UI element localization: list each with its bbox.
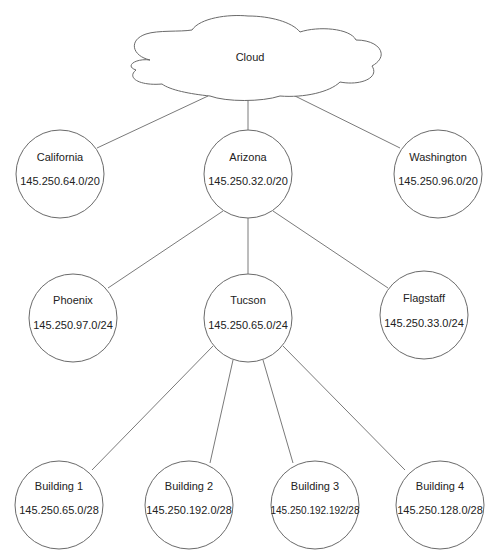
node-name: Building 2 xyxy=(165,480,213,492)
node-subnet: 145.250.64.0/20 xyxy=(20,175,100,187)
node-tucson[interactable]: Tucson 145.250.65.0/24 xyxy=(204,274,292,362)
node-name: Tucson xyxy=(230,294,266,306)
node-phoenix[interactable]: Phoenix 145.250.97.0/24 xyxy=(29,274,117,362)
node-building3[interactable]: Building 3 145.250.192.192/28 xyxy=(271,461,360,549)
node-subnet: 145.250.192.192/28 xyxy=(271,505,360,516)
node-name: Building 3 xyxy=(291,480,339,492)
california-circle xyxy=(16,130,104,218)
edge-arizona-flagstaff xyxy=(273,211,388,288)
edge-arizona-phoenix xyxy=(108,211,223,288)
node-washington[interactable]: Washington 145.250.96.0/20 xyxy=(394,130,482,218)
cloud-label: Cloud xyxy=(236,51,265,63)
node-subnet: 145.250.65.0/24 xyxy=(208,319,288,331)
edge-tucson-building3 xyxy=(263,360,293,463)
edge-cloud-california xyxy=(97,96,208,148)
tucson-circle xyxy=(204,274,292,362)
node-name: California xyxy=(37,151,84,163)
node-subnet: 145.250.33.0/24 xyxy=(384,317,464,329)
node-subnet: 145.250.97.0/24 xyxy=(33,319,113,331)
node-name: Washington xyxy=(409,151,467,163)
node-building4[interactable]: Building 4 145.250.128.0/28 xyxy=(396,461,484,549)
arizona-circle xyxy=(204,130,292,218)
node-subnet: 145.250.96.0/20 xyxy=(398,175,478,187)
node-building1[interactable]: Building 1 145.250.65.0/28 xyxy=(15,461,103,549)
phoenix-circle xyxy=(29,274,117,362)
edge-tucson-building4 xyxy=(283,346,405,470)
edge-tucson-building1 xyxy=(92,346,213,470)
node-subnet: 145.250.128.0/28 xyxy=(397,504,483,516)
network-diagram: Cloud California 145.250.64.0/20 Arizona… xyxy=(0,0,497,559)
node-arizona[interactable]: Arizona 145.250.32.0/20 xyxy=(204,130,292,218)
node-subnet: 145.250.192.0/28 xyxy=(146,504,232,516)
node-name: Building 1 xyxy=(35,480,83,492)
node-california[interactable]: California 145.250.64.0/20 xyxy=(16,130,104,218)
edge-tucson-building2 xyxy=(210,360,233,463)
node-name: Building 4 xyxy=(416,480,464,492)
node-subnet: 145.250.32.0/20 xyxy=(208,175,288,187)
node-name: Flagstaff xyxy=(403,292,446,304)
cloud-node[interactable]: Cloud xyxy=(131,16,381,101)
washington-circle xyxy=(394,130,482,218)
node-name: Phoenix xyxy=(53,294,93,306)
node-name: Arizona xyxy=(229,151,267,163)
edge-cloud-washington xyxy=(295,96,400,148)
flagstaff-circle xyxy=(380,271,468,359)
node-subnet: 145.250.65.0/28 xyxy=(19,504,99,516)
node-flagstaff[interactable]: Flagstaff 145.250.33.0/24 xyxy=(380,271,468,359)
node-building2[interactable]: Building 2 145.250.192.0/28 xyxy=(145,461,233,549)
